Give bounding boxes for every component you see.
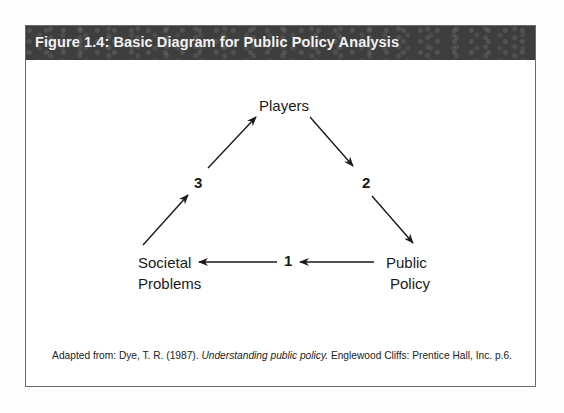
figure-caption: Adapted from: Dye, T. R. (1987). Underst… [0, 350, 564, 361]
arrow-societal-problems-to-3 [143, 195, 188, 245]
step-label-3: 3 [194, 174, 202, 191]
step-label-2: 2 [362, 174, 370, 191]
caption-prefix: Adapted from: Dye, T. R. (1987). [52, 350, 201, 361]
step-label-1: 1 [284, 252, 292, 269]
node-societal-problems-line1: Societal [138, 252, 191, 273]
arrow-2-to-public-policy [372, 196, 413, 243]
node-societal-problems-line2: Problems [138, 273, 201, 294]
arrow-3-to-players [208, 117, 256, 168]
node-public-policy-line1: Public [386, 252, 427, 273]
arrow-players-to-2 [310, 117, 353, 166]
caption-title: Understanding public policy. [201, 350, 328, 361]
node-public-policy-line2: Policy [390, 273, 430, 294]
node-players: Players [259, 95, 309, 116]
caption-suffix: Englewood Cliffs: Prentice Hall, Inc. p.… [328, 350, 512, 361]
